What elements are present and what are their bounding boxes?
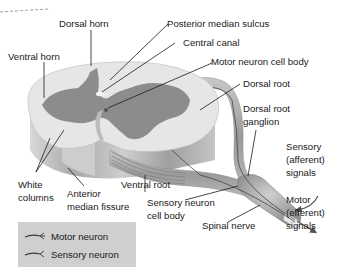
- label-anterior-median-fissure-1: Anterior: [67, 187, 101, 200]
- legend-label-sensory-neuron: Sensory neuron: [51, 249, 119, 260]
- sensory-neuron-icon: [24, 249, 46, 259]
- label-sensory-neuron-cell-body-1: Sensory neuron: [147, 196, 215, 209]
- label-spinal-nerve: Spinal nerve: [202, 219, 255, 232]
- label-white-columns-1: White: [18, 178, 43, 191]
- label-sensory-signals-3: signals: [286, 166, 316, 179]
- label-dorsal-horn: Dorsal horn: [59, 17, 109, 30]
- label-central-canal: Central canal: [183, 36, 240, 49]
- central-canal: [96, 92, 104, 96]
- label-motor-neuron-cell-body: Motor neuron cell body: [211, 55, 309, 68]
- label-motor-signals-3: signals: [286, 219, 316, 232]
- label-motor-signals-2: (efferent): [286, 206, 325, 219]
- motor-neuron-cell-body: [104, 108, 108, 112]
- label-ventral-root: Ventral root: [121, 178, 170, 191]
- label-anterior-median-fissure-2: median fissure: [67, 200, 129, 213]
- label-dorsal-root-ganglion-1: Dorsal root: [243, 102, 290, 115]
- label-ventral-horn: Ventral horn: [8, 50, 60, 63]
- label-motor-signals-1: Motor: [286, 193, 311, 206]
- legend-item-motor-neuron: Motor neuron: [24, 229, 108, 243]
- label-posterior-median-sulcus: Posterior median sulcus: [167, 17, 269, 30]
- spinal-cord-diagram: Dorsal horn Ventral horn Posterior media…: [0, 0, 342, 278]
- legend-item-sensory-neuron: Sensory neuron: [24, 247, 119, 261]
- motor-neuron-icon: [24, 231, 46, 241]
- label-sensory-signals-1: Sensory: [286, 140, 321, 153]
- label-dorsal-root: Dorsal root: [243, 77, 290, 90]
- legend: Motor neuron Sensory neuron: [18, 222, 136, 267]
- label-dorsal-root-ganglion-2: ganglion: [243, 115, 279, 128]
- label-sensory-neuron-cell-body-2: cell body: [147, 209, 185, 222]
- label-sensory-signals-2: (afferent): [286, 153, 325, 166]
- dashed-border: [0, 9, 50, 12]
- legend-label-motor-neuron: Motor neuron: [51, 231, 108, 242]
- label-white-columns-2: columns: [18, 191, 54, 204]
